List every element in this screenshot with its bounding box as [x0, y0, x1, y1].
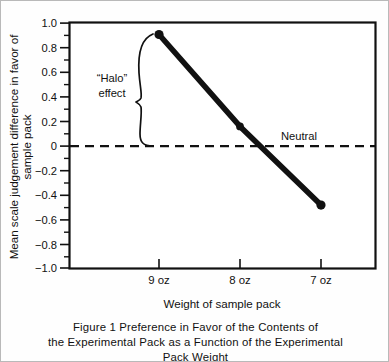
x-tick-label: 9 oz [148, 274, 170, 286]
x-tick-label: 7 oz [310, 274, 332, 286]
y-tick-label: −0.6 [35, 214, 57, 226]
y-tick-label: 1.0 [41, 17, 57, 29]
y-axis-tick-labels: 1.0 0.8 0.6 0.4 0.2 0 −0.2 −0.4 −0.6 −0.… [35, 17, 57, 274]
data-point-9oz [154, 30, 163, 39]
y-tick-label: −0.4 [35, 189, 57, 201]
halo-effect-line2: effect [98, 87, 126, 99]
halo-effect-line1: “Halo” [97, 72, 128, 84]
y-tick-label: 0.4 [41, 91, 57, 103]
y-tick-label: 0.2 [41, 116, 57, 128]
neutral-label: Neutral [281, 130, 317, 142]
y-axis-title-line1: Mean scale judgement difference in favor… [7, 34, 20, 259]
y-tick-label: −1.0 [35, 262, 57, 274]
data-point-8oz [236, 123, 244, 131]
chart-canvas: 1.0 0.8 0.6 0.4 0.2 0 −0.2 −0.4 −0.6 −0.… [1, 1, 389, 362]
data-point-7oz [316, 201, 325, 210]
y-axis-title-line2: sample pack [20, 114, 33, 179]
y-tick-label: 0 [51, 140, 57, 152]
y-axis-title: Mean scale judgement difference in favor… [7, 34, 33, 259]
x-tick-label: 8 oz [229, 274, 251, 286]
y-tick-label: 0.8 [41, 42, 57, 54]
x-axis-title: Weight of sample pack [163, 297, 280, 310]
y-tick-label: −0.2 [35, 165, 57, 177]
y-tick-label: −0.8 [35, 239, 57, 251]
x-axis-tick-labels: 9 oz 8 oz 7 oz [148, 274, 332, 286]
y-tick-label: 0.6 [41, 66, 57, 78]
figure-panel: 1.0 0.8 0.6 0.4 0.2 0 −0.2 −0.4 −0.6 −0.… [0, 0, 389, 362]
